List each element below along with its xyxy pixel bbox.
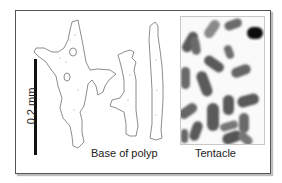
sclerite-medium (110, 50, 138, 136)
caption-tentacle: Tentacle (195, 147, 236, 159)
caption-base-of-polyp: Base of polyp (91, 147, 158, 159)
sclerite-rod (149, 22, 163, 140)
sclerite-large (34, 20, 116, 148)
tentacle-sclerites-micrograph (180, 16, 265, 145)
